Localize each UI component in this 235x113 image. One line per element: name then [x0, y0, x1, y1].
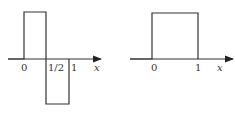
tick-0-right: 0 — [151, 62, 157, 73]
tick-0-left: 0 — [21, 62, 27, 73]
tick-1-left: 1 — [71, 62, 77, 73]
right-plot: 0 1 x — [130, 13, 233, 73]
haar-wavelet-curve — [8, 12, 69, 104]
left-plot: 0 1/2 1 x — [8, 12, 101, 104]
diagram-canvas: 0 1/2 1 x 0 1 x — [0, 0, 235, 113]
tick-half-left: 1/2 — [48, 62, 64, 73]
axis-label-x-left: x — [94, 62, 100, 73]
axis-label-x-right: x — [217, 62, 223, 73]
box-function-curve — [130, 13, 198, 59]
tick-1-right: 1 — [195, 62, 201, 73]
